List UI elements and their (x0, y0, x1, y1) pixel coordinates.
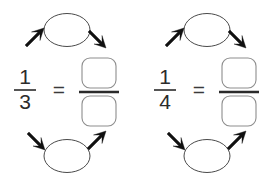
equals-sign: = (53, 78, 65, 101)
diagram-canvas: 1 3 = (0, 0, 278, 185)
fraction-numerator: 1 (19, 65, 31, 88)
fraction-denominator: 4 (159, 90, 171, 113)
fraction-denominator: 3 (19, 90, 31, 113)
equals-sign: = (193, 78, 205, 101)
fraction-numerator: 1 (159, 65, 171, 88)
